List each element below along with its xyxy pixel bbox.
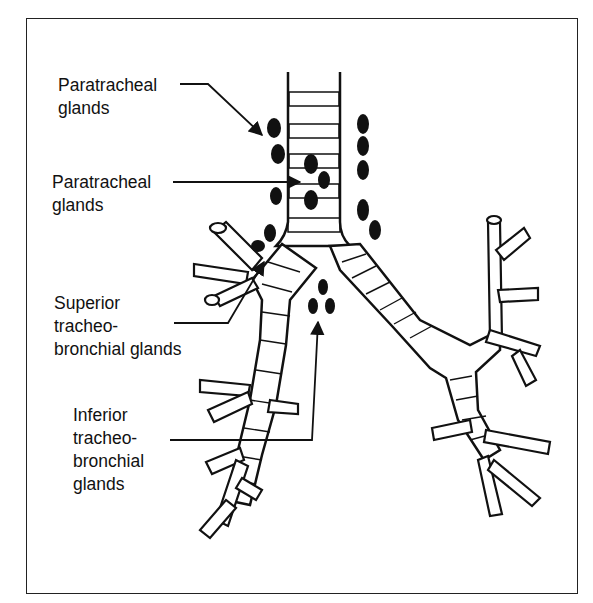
label-paratracheal-glands-1: Paratrachealglands <box>58 74 157 120</box>
label-line: glands <box>73 474 125 494</box>
label-inferior-tracheobronchial-glands: Inferiortracheo-bronchialglands <box>73 404 144 496</box>
label-line: bronchial <box>73 451 144 471</box>
superior-tracheobronchial-glands <box>251 240 265 252</box>
label-line: Superior <box>54 293 120 313</box>
label-line: Inferior <box>73 405 127 425</box>
label-paratracheal-glands-2: Paratrachealglands <box>52 171 151 217</box>
label-line: Paratracheal <box>58 75 157 95</box>
inferior-tracheobronchial-glands <box>308 279 335 314</box>
label-line: tracheo- <box>54 316 118 336</box>
label-line: glands <box>52 195 104 215</box>
label-line: Paratracheal <box>52 172 151 192</box>
label-line: glands <box>58 98 110 118</box>
label-line: tracheo- <box>73 428 137 448</box>
label-superior-tracheobronchial-glands: Superiortracheo-bronchial glands <box>54 292 181 361</box>
label-line: bronchial glands <box>54 339 181 359</box>
